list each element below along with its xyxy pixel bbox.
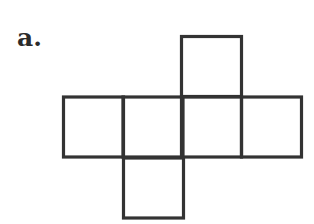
square-right: [242, 97, 302, 157]
square-center-right: [182, 97, 242, 157]
square-left: [64, 97, 124, 157]
cube-net-diagram: [0, 0, 314, 224]
square-bottom: [124, 158, 184, 218]
square-center-left: [123, 97, 183, 157]
square-top: [182, 37, 242, 97]
